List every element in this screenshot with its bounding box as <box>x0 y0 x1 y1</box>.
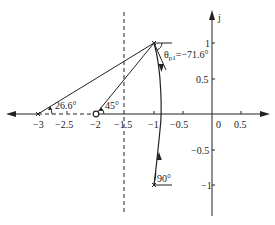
tick-label: −1.5 <box>114 119 132 130</box>
imag-axis-arrow-icon <box>209 10 215 20</box>
departure-angle-label: θp1=−71.6° <box>164 49 209 62</box>
root-locus-diagram: −3 −2.5 −2 −1.5 −1 −0.5 0 0.5 1 0.5 −0.5… <box>0 0 275 225</box>
angle-label-conj: 90° <box>157 173 171 184</box>
tick-label: −2 <box>90 119 101 130</box>
angle-arc-departure <box>157 43 162 50</box>
tick-label: −0.5 <box>170 119 188 130</box>
angle-label-pole3: 26.6° <box>55 100 77 111</box>
tick-label: 0 <box>216 119 221 130</box>
zero-minus2-icon <box>93 111 99 117</box>
real-axis-left-arrow-icon <box>6 111 16 117</box>
angle-label-zero: 45° <box>105 100 119 111</box>
tick-label: −1 <box>148 119 159 130</box>
real-axis-right-arrow-icon <box>260 111 270 117</box>
tick-label: −0.5 <box>191 145 209 156</box>
tick-label: 0.5 <box>196 74 209 85</box>
tick-label: −2.5 <box>55 119 73 130</box>
tick-label: −3 <box>33 119 44 130</box>
tick-label: −1 <box>201 180 212 191</box>
tick-label: 0.5 <box>234 119 247 130</box>
imag-axis-label: j <box>217 12 221 23</box>
tick-label: 1 <box>205 38 210 49</box>
